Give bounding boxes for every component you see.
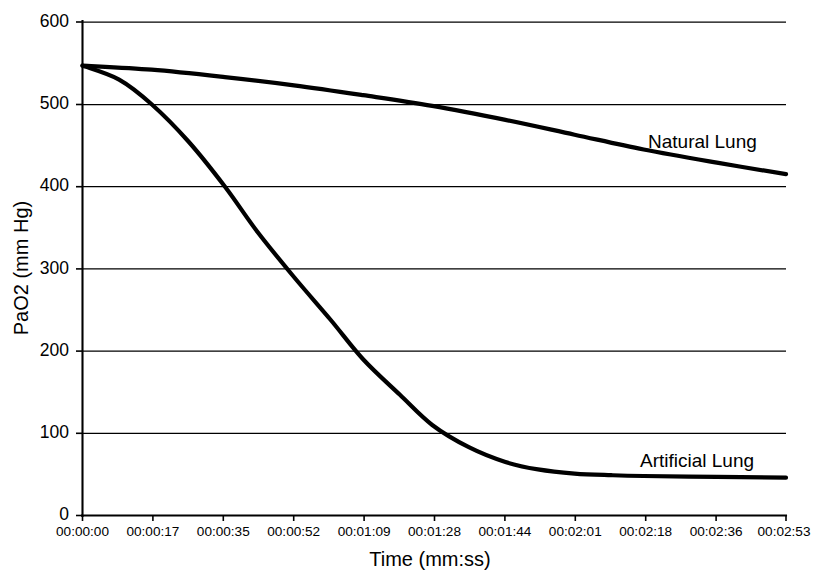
y-tick-labels: 600 500 400 300 200 100 0 (40, 11, 69, 525)
y-tick-label-600: 600 (40, 11, 69, 31)
y-tick-label-300: 300 (40, 258, 69, 278)
series-paths (83, 66, 787, 478)
series-label-natural-lung: Natural Lung (648, 131, 757, 152)
series-line-artificial-lung (83, 66, 787, 478)
paO2-time-line-chart: 600 500 400 300 200 100 0 00:00:00 00:00… (0, 0, 832, 582)
x-tick-label-0: 00:00:00 (56, 524, 109, 539)
y-tick-label-0: 0 (59, 504, 69, 524)
y-tick-label-500: 500 (40, 93, 69, 113)
series-line-natural-lung (83, 66, 787, 175)
x-tick-label-6: 00:01:44 (478, 524, 531, 539)
x-tick-label-9: 00:02:36 (690, 524, 743, 539)
x-tick-label-8: 00:02:18 (619, 524, 672, 539)
y-tick-label-100: 100 (40, 422, 69, 442)
x-tick-label-10: 00:02:53 (758, 524, 811, 539)
x-tick-labels: 00:00:00 00:00:17 00:00:35 00:00:52 00:0… (56, 524, 810, 539)
x-axis-title: Time (mm:ss) (369, 548, 490, 570)
x-tick-label-3: 00:00:52 (267, 524, 320, 539)
y-axis-title: PaO2 (mm Hg) (10, 201, 32, 335)
gridlines (82, 22, 786, 433)
x-tick-label-4: 00:01:09 (338, 524, 391, 539)
x-tick-label-7: 00:02:01 (549, 524, 602, 539)
chart-figure: 600 500 400 300 200 100 0 00:00:00 00:00… (0, 0, 832, 582)
y-tick-label-400: 400 (40, 175, 69, 195)
y-tickmarks (76, 22, 82, 516)
series-label-artificial-lung: Artificial Lung (640, 450, 754, 471)
x-tick-label-1: 00:00:17 (126, 524, 179, 539)
x-tick-label-2: 00:00:35 (197, 524, 250, 539)
y-tick-label-200: 200 (40, 340, 69, 360)
x-tick-label-5: 00:01:28 (408, 524, 461, 539)
